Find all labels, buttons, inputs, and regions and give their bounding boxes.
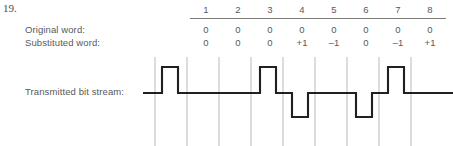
substituted-word-label: Substituted word: [25, 37, 100, 48]
header-rule [190, 18, 446, 19]
original-word-values-row: 00000000 [190, 24, 445, 36]
original-word-cell-5: 0 [318, 24, 350, 35]
column-header-1: 1 [190, 4, 222, 15]
original-word-cell-8: 0 [414, 24, 446, 35]
waveform-trace [143, 67, 453, 117]
column-header-4: 4 [286, 4, 318, 15]
substituted-word-cell-2: 0 [222, 37, 254, 48]
column-header-7: 7 [382, 4, 414, 15]
problem-number: 19. [3, 2, 17, 14]
column-header-6: 6 [350, 4, 382, 15]
transmitted-bit-stream-waveform [0, 55, 453, 146]
original-word-cell-4: 0 [286, 24, 318, 35]
substituted-word-cell-5: –1 [318, 37, 350, 48]
column-header-row: 12345678 [190, 4, 445, 16]
original-word-cell-3: 0 [254, 24, 286, 35]
substituted-word-cell-8: +1 [414, 37, 446, 48]
substituted-word-cell-7: –1 [382, 37, 414, 48]
substituted-word-cell-4: +1 [286, 37, 318, 48]
substituted-word-cell-3: 0 [254, 37, 286, 48]
original-word-cell-7: 0 [382, 24, 414, 35]
original-word-cell-1: 0 [190, 24, 222, 35]
original-word-label: Original word: [25, 24, 85, 35]
original-word-cell-2: 0 [222, 24, 254, 35]
substituted-word-values-row: 000+1–10–1+1 [190, 37, 445, 49]
column-header-5: 5 [318, 4, 350, 15]
column-header-8: 8 [414, 4, 446, 15]
column-header-3: 3 [254, 4, 286, 15]
substituted-word-cell-1: 0 [190, 37, 222, 48]
waveform-panel [0, 55, 453, 146]
column-header-2: 2 [222, 4, 254, 15]
original-word-cell-6: 0 [350, 24, 382, 35]
encoding-figure: 19. Original word: Substituted word: Tra… [0, 0, 453, 146]
substituted-word-cell-6: 0 [350, 37, 382, 48]
